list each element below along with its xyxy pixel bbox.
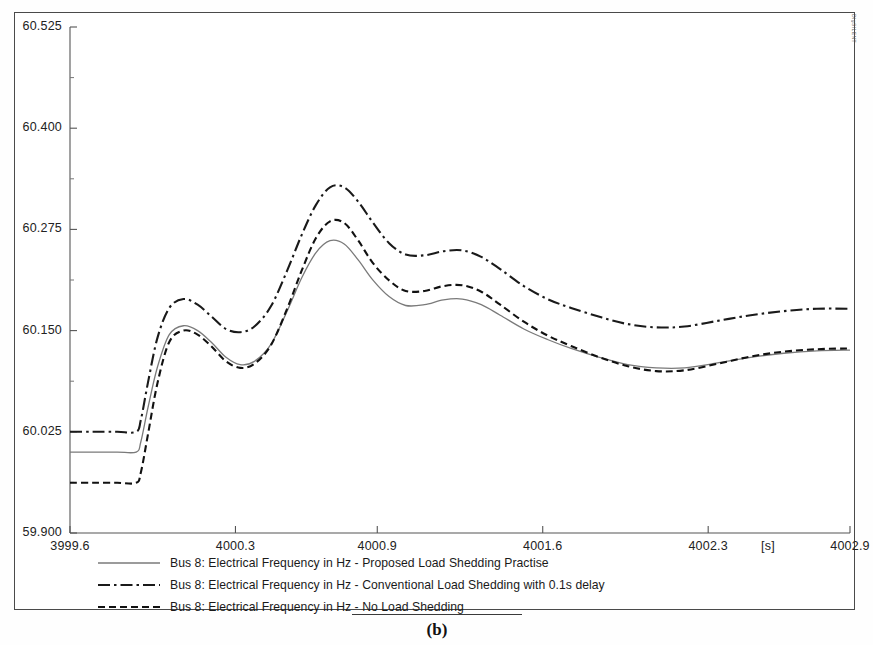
- x-tick-label: 4000.3: [216, 539, 255, 553]
- legend-item: Bus 8: Electrical Frequency in Hz - Prop…: [96, 552, 716, 574]
- chart-legend: Bus 8: Electrical Frequency in Hz - Prop…: [96, 552, 716, 618]
- y-tick-label: 60.025: [4, 424, 62, 438]
- frequency-plot: [0, 0, 873, 645]
- curve-dash-dot: [70, 185, 850, 432]
- y-tick-label: 60.400: [4, 120, 62, 134]
- x-tick-label: 4002.3: [688, 539, 727, 553]
- x-tick-label: 3999.6: [50, 539, 89, 553]
- y-tick-label: 60.275: [4, 221, 62, 235]
- figure-panel: DIgSILENT 60.52560.40060.27560.15060.025…: [0, 0, 873, 645]
- y-tick-label: 60.525: [4, 19, 62, 33]
- legend-label: Bus 8: Electrical Frequency in Hz - No L…: [170, 600, 464, 614]
- curve-solid: [70, 240, 850, 453]
- solid-line-key: [96, 557, 162, 569]
- y-tick-label: 59.900: [4, 525, 62, 539]
- caption-rule: [352, 614, 522, 615]
- y-tick-label: 60.150: [4, 323, 62, 337]
- curve-group: [70, 185, 850, 483]
- legend-item: Bus 8: Electrical Frequency in Hz - Conv…: [96, 574, 716, 596]
- x-tick-label: 4001.6: [523, 539, 562, 553]
- legend-label: Bus 8: Electrical Frequency in Hz - Prop…: [170, 556, 549, 570]
- x-axis-unit-label: [s]: [761, 539, 775, 553]
- curve-dashed: [70, 220, 850, 484]
- figure-caption: (b): [352, 620, 522, 640]
- axes-lines: [70, 27, 850, 533]
- x-tick-label: 4000.9: [358, 539, 397, 553]
- legend-label: Bus 8: Electrical Frequency in Hz - Conv…: [170, 578, 605, 592]
- dash-dot-line-key: [96, 579, 162, 591]
- x-tick-label: 4002.9: [830, 539, 869, 553]
- dashed-line-key: [96, 601, 162, 613]
- axis-ticks: [70, 27, 850, 533]
